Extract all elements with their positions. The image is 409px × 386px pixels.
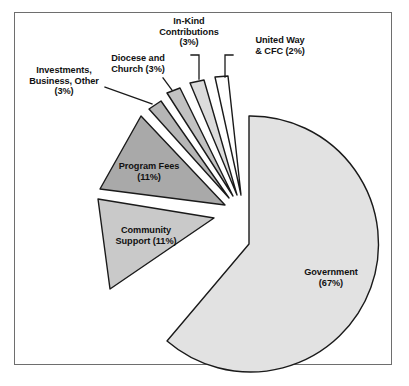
label-in-kind-contributions: In-Kind Contributions (3%) [139, 16, 239, 48]
label-program-fees-line2: (11%) [104, 172, 194, 183]
label-community-support: Community Support (11%) [96, 225, 196, 246]
label-community-line2: Support (11%) [96, 236, 196, 247]
pie-graphic [0, 0, 409, 386]
label-diocese-line1: Diocese and [96, 53, 180, 64]
label-community-line1: Community [96, 225, 196, 236]
label-government-line1: Government [288, 267, 374, 278]
label-investments-line3: (3%) [16, 86, 112, 97]
leader-line-diocese [163, 78, 172, 90]
label-program-fees-line1: Program Fees [104, 161, 194, 172]
leader-line-investments [105, 87, 152, 104]
label-investments-business-other: Investments, Business, Other (3%) [16, 65, 112, 97]
label-in-kind-line2: Contributions [139, 27, 239, 38]
label-united-way-line2: & CFC (2%) [234, 46, 326, 57]
leader-line-inkind [191, 55, 199, 79]
label-in-kind-line3: (3%) [139, 37, 239, 48]
label-government-line2: (67%) [288, 278, 374, 289]
leader-line-unitedway [225, 55, 233, 77]
pie-chart-figure: In-Kind Contributions (3%) United Way & … [0, 0, 409, 386]
label-government: Government (67%) [288, 267, 374, 288]
label-united-way-cfc: United Way & CFC (2%) [234, 35, 326, 56]
label-united-way-line1: United Way [234, 35, 326, 46]
label-program-fees: Program Fees (11%) [104, 161, 194, 182]
label-investments-line1: Investments, [16, 65, 112, 76]
label-in-kind-line1: In-Kind [139, 16, 239, 27]
label-investments-line2: Business, Other [16, 76, 112, 87]
